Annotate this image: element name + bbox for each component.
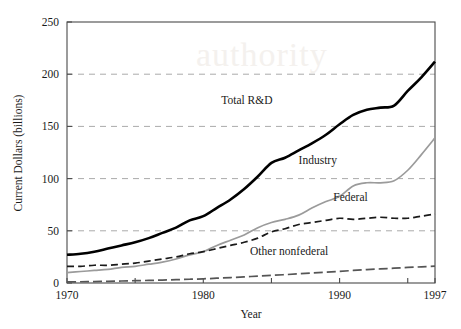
series-line-other-nonfederal xyxy=(67,266,435,282)
y-tick-label: 0 xyxy=(53,277,59,289)
x-axis-title: Year xyxy=(240,308,261,320)
series-label-industry: Industry xyxy=(299,154,338,167)
y-tick-label: 250 xyxy=(42,16,60,28)
y-tick-label: 100 xyxy=(42,173,60,185)
x-tick-label: 1970 xyxy=(56,289,79,301)
series-line-total-r-d xyxy=(67,62,435,255)
y-tick-label: 150 xyxy=(42,120,60,132)
series-label-total-r-d: Total R&D xyxy=(221,94,272,106)
series-label-federal: Federal xyxy=(333,191,367,203)
series-line-federal xyxy=(67,214,435,266)
y-tick-label: 50 xyxy=(48,225,60,237)
x-tick-label: 1980 xyxy=(192,289,215,301)
x-tick-label: 1997 xyxy=(424,289,447,301)
series-label-other-nonfederal: Other nonfederal xyxy=(250,245,328,257)
chart-figure: authority 050100150200250 19701980199019… xyxy=(0,0,461,329)
y-tick-label: 200 xyxy=(42,68,60,80)
x-tick-label: 1990 xyxy=(328,289,351,301)
rd-expenditures-line-chart: 050100150200250 1970198019901997 Total R… xyxy=(0,0,461,329)
y-axis-title: Current Dollars (billions) xyxy=(12,94,25,211)
